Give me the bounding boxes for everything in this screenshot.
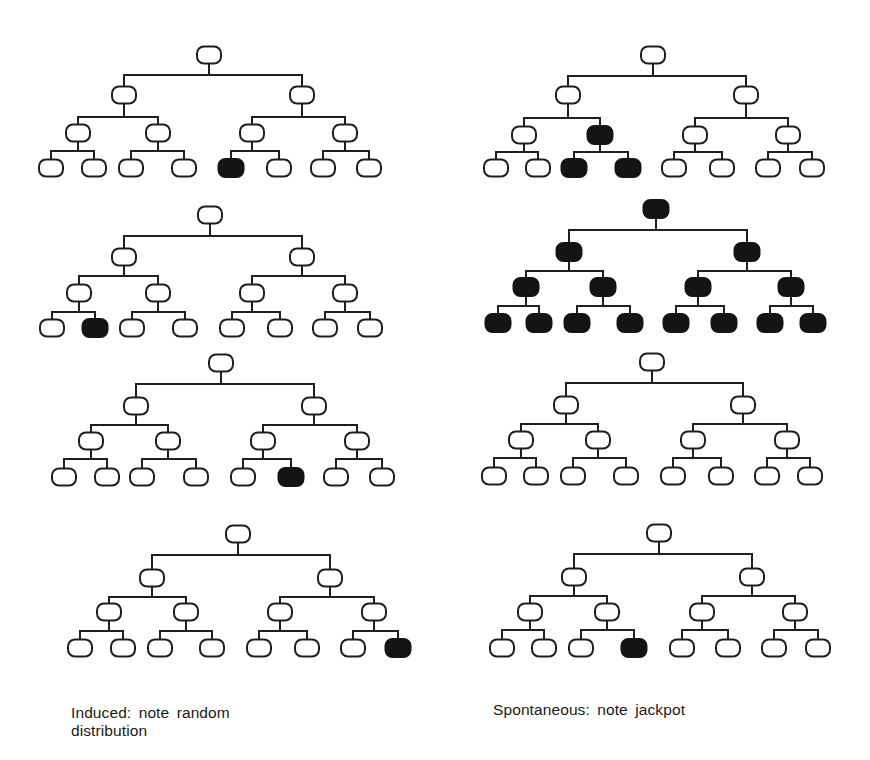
- cell-node-gen2-normal: [174, 604, 198, 621]
- cell-node-gen2-normal: [690, 604, 714, 621]
- cell-node-gen1-normal: [318, 570, 342, 587]
- cell-node-gen3-normal: [68, 640, 92, 657]
- cell-node-gen3-normal: [172, 160, 196, 177]
- caption-induced: Induced: note random distribution: [71, 704, 311, 740]
- cell-node-gen1-normal: [302, 398, 326, 415]
- cell-node-gen3-normal: [268, 320, 292, 337]
- cell-node-root-normal: [197, 47, 221, 64]
- cell-node-gen2-normal: [240, 125, 264, 142]
- cell-node-gen3-normal: [709, 468, 733, 485]
- cell-node-root-mutant: [644, 200, 669, 218]
- cell-node-gen2-normal: [512, 127, 536, 144]
- cell-node-gen3-normal: [247, 640, 271, 657]
- caption-spontaneous: Spontaneous: note jackpot: [493, 701, 793, 719]
- cell-node-gen3-normal: [82, 160, 106, 177]
- cell-node-gen3-normal: [710, 160, 734, 177]
- cell-node-gen3-normal: [798, 468, 822, 485]
- cell-node-gen3-normal: [524, 468, 548, 485]
- cell-node-gen3-normal: [490, 640, 514, 657]
- cell-node-gen1-normal: [556, 87, 580, 104]
- cell-node-gen2-normal: [146, 285, 170, 302]
- cell-node-gen3-mutant: [618, 314, 643, 332]
- tree-induced-2: [40, 207, 382, 338]
- cell-node-gen3-normal: [311, 160, 335, 177]
- cell-node-gen3-normal: [662, 160, 686, 177]
- cell-node-gen3-normal: [561, 468, 585, 485]
- cell-node-gen1-normal: [112, 87, 136, 104]
- lineage-tree-diagram: [0, 0, 870, 760]
- tree-spontaneous-2: [486, 200, 826, 332]
- cell-node-gen2-normal: [345, 433, 369, 450]
- cell-node-gen2-mutant: [588, 126, 613, 144]
- cell-node-gen2-normal: [79, 433, 103, 450]
- cell-node-gen2-normal: [595, 604, 619, 621]
- cell-node-gen2-normal: [97, 604, 121, 621]
- cell-node-root-normal: [647, 525, 671, 542]
- cell-node-gen3-normal: [120, 320, 144, 337]
- cell-node-gen2-normal: [681, 432, 705, 449]
- cell-node-gen3-normal: [39, 160, 63, 177]
- cell-node-gen2-mutant: [514, 278, 539, 296]
- cell-node-gen3-normal: [806, 640, 830, 657]
- tree-induced-4: [68, 526, 411, 658]
- cell-node-gen2-normal: [146, 125, 170, 142]
- cell-node-gen2-mutant: [686, 278, 711, 296]
- cell-node-gen1-normal: [734, 87, 758, 104]
- cell-node-gen1-normal: [124, 398, 148, 415]
- cell-node-gen3-normal: [526, 160, 550, 177]
- cell-node-gen3-normal: [173, 320, 197, 337]
- cell-node-gen2-normal: [240, 285, 264, 302]
- cell-node-root-normal: [641, 47, 665, 64]
- cell-node-gen2-normal: [333, 125, 357, 142]
- cell-node-gen3-normal: [295, 640, 319, 657]
- cell-node-gen2-normal: [362, 604, 386, 621]
- cell-node-gen2-normal: [683, 127, 707, 144]
- cell-node-gen1-normal: [562, 569, 586, 586]
- cell-node-gen3-normal: [220, 320, 244, 337]
- cell-node-gen3-normal: [762, 640, 786, 657]
- cell-node-gen3-mutant: [279, 468, 304, 486]
- cell-node-gen2-normal: [783, 604, 807, 621]
- cell-node-gen3-normal: [569, 640, 593, 657]
- cell-node-gen1-normal: [140, 570, 164, 587]
- cell-node-gen3-normal: [484, 160, 508, 177]
- cell-node-gen2-normal: [268, 604, 292, 621]
- cell-node-gen3-normal: [313, 320, 337, 337]
- cell-node-gen3-mutant: [664, 314, 689, 332]
- cell-node-gen3-normal: [661, 468, 685, 485]
- cell-node-gen2-normal: [586, 432, 610, 449]
- cell-node-gen3-normal: [614, 468, 638, 485]
- cell-node-gen3-normal: [716, 640, 740, 657]
- cell-node-gen3-normal: [324, 469, 348, 486]
- cell-node-gen3-normal: [184, 469, 208, 486]
- cell-node-gen3-normal: [358, 320, 382, 337]
- cell-node-gen3-mutant: [527, 314, 552, 332]
- cell-node-gen2-normal: [775, 432, 799, 449]
- cell-node-gen3-mutant: [712, 314, 737, 332]
- cell-node-gen2-normal: [66, 125, 90, 142]
- cell-node-gen3-normal: [231, 469, 255, 486]
- cell-node-gen3-mutant: [622, 639, 647, 657]
- cell-node-gen3-normal: [148, 640, 172, 657]
- cell-node-gen2-mutant: [779, 278, 804, 296]
- cell-node-gen1-normal: [290, 87, 314, 104]
- cell-node-gen1-normal: [112, 249, 136, 266]
- cell-node-gen2-normal: [251, 433, 275, 450]
- cell-node-gen3-normal: [370, 469, 394, 486]
- cell-node-gen3-mutant: [83, 319, 108, 337]
- tree-induced-1: [39, 47, 381, 178]
- tree-spontaneous-1: [484, 47, 824, 178]
- cell-node-gen3-normal: [670, 640, 694, 657]
- tree-spontaneous-3: [482, 354, 822, 485]
- cell-node-gen2-normal: [333, 285, 357, 302]
- cell-node-gen3-normal: [532, 640, 556, 657]
- cell-node-gen3-mutant: [562, 159, 587, 177]
- cell-node-gen3-normal: [267, 160, 291, 177]
- cell-node-gen3-mutant: [565, 314, 590, 332]
- cell-node-gen2-normal: [156, 433, 180, 450]
- cell-node-gen1-normal: [554, 397, 578, 414]
- cell-node-gen2-normal: [509, 432, 533, 449]
- cell-node-gen1-normal: [290, 249, 314, 266]
- cell-node-gen3-mutant: [486, 314, 511, 332]
- cell-node-root-normal: [640, 354, 664, 371]
